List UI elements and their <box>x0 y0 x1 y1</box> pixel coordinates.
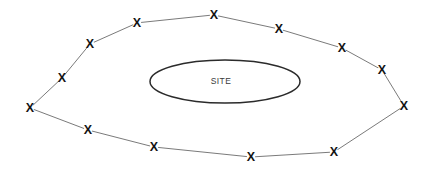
site-perimeter-diagram: SITE XXXXXXXXXXXXX <box>0 0 428 173</box>
site-boundary-group: SITE <box>150 60 300 103</box>
monitoring-point-marker[interactable]: X <box>133 16 142 30</box>
site-label: SITE <box>211 76 232 86</box>
monitoring-point-marker[interactable]: X <box>330 145 339 159</box>
monitoring-point-marker[interactable]: X <box>84 123 93 137</box>
monitoring-point-marker[interactable]: X <box>150 140 159 154</box>
monitoring-point-marker[interactable]: X <box>26 101 35 115</box>
monitoring-point-marker[interactable]: X <box>400 99 409 113</box>
monitoring-point-marker[interactable]: X <box>247 150 256 164</box>
monitoring-point-marker[interactable]: X <box>58 71 67 85</box>
monitoring-point-marker[interactable]: X <box>210 8 219 22</box>
diagram-canvas: SITE XXXXXXXXXXXXX <box>0 0 428 173</box>
monitoring-point-marker[interactable]: X <box>86 37 95 51</box>
monitoring-point-marker[interactable]: X <box>338 41 347 55</box>
monitoring-point-marker[interactable]: X <box>378 63 387 77</box>
monitoring-point-marker[interactable]: X <box>275 22 284 36</box>
